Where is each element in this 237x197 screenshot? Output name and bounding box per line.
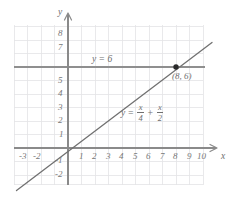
y-tick-label-5: 5 (58, 76, 63, 85)
x-tick-label-minus-3: -3 (19, 152, 27, 161)
y-tick-label-3: 3 (58, 103, 63, 112)
x-tick-label-9: 9 (187, 152, 192, 161)
fraction-x-over-2: x 2 (157, 103, 163, 123)
x-axis-label: x (221, 152, 225, 162)
fraction-x-over-4-denominator: 4 (137, 114, 143, 123)
y-tick-label-minus-1: -1 (55, 156, 63, 165)
fraction-x-over-2-denominator: 2 (157, 114, 163, 123)
fraction-x-over-2-numerator: x (157, 103, 163, 112)
line-y-equals-x-over-4-plus-x-over-2 (17, 43, 213, 191)
y-tick-label-8: 8 (58, 29, 63, 38)
equation-equals-sign: = (128, 109, 134, 119)
annotation-y-equals-6-lhs: y (92, 54, 96, 64)
x-tick-label-5: 5 (133, 152, 138, 161)
x-tick-label-7: 7 (160, 152, 165, 161)
grid-lines (14, 25, 203, 185)
y-tick-label-4: 4 (58, 89, 63, 98)
y-tick-label-1: 1 (59, 130, 64, 139)
point-marker-8-6 (173, 64, 178, 69)
x-tick-label-10: 10 (197, 152, 206, 161)
x-tick-label-4: 4 (119, 152, 124, 161)
x-tick-label-1: 1 (79, 152, 84, 161)
annotation-y-equals-6: y = 6 (92, 55, 112, 65)
x-tick-label-8: 8 (173, 152, 178, 161)
x-tick-label-minus-2: -2 (33, 152, 41, 161)
fraction-x-over-4-numerator: x (137, 103, 143, 112)
graph-figure: y x 8 7 5 4 3 2 1 -1 -2 -3 -2 1 2 3 4 5 … (0, 0, 237, 197)
equation-lhs: y (121, 109, 125, 119)
y-axis (65, 13, 72, 185)
annotation-line-equation: y = x 4 + x 2 (121, 104, 164, 124)
y-axis-label: y (58, 8, 62, 18)
annotation-y-equals-6-equals: = (99, 54, 105, 64)
fraction-x-over-4: x 4 (137, 103, 143, 123)
y-tick-label-minus-2: -2 (55, 170, 63, 179)
x-tick-label-6: 6 (146, 152, 151, 161)
point-label-8-6: (8, 6) (172, 72, 192, 81)
x-tick-label-2: 2 (92, 152, 97, 161)
y-tick-label-2: 2 (58, 116, 63, 125)
x-tick-label-3: 3 (106, 152, 111, 161)
y-tick-label-7: 7 (58, 43, 63, 52)
coordinate-plane-svg (0, 0, 237, 197)
equation-plus-sign: + (147, 109, 153, 119)
annotation-y-equals-6-rhs: 6 (107, 54, 112, 64)
